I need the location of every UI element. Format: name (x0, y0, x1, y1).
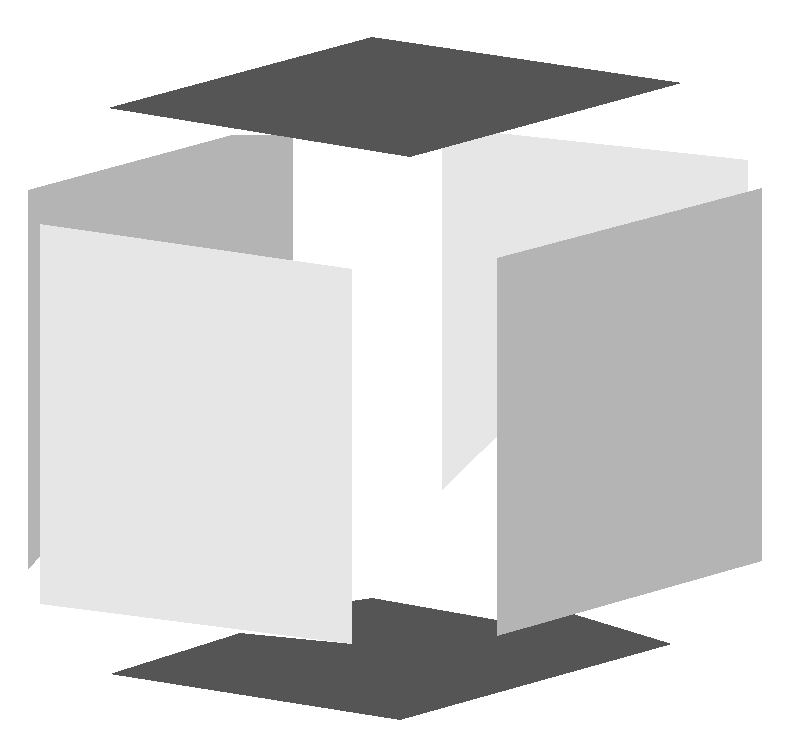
cube-svg (0, 0, 792, 745)
front-left-face (40, 224, 352, 644)
exploded-cube-diagram: Exploded cube: six separated square face… (0, 0, 792, 745)
front-right-face (497, 188, 762, 636)
top-face (108, 37, 682, 157)
